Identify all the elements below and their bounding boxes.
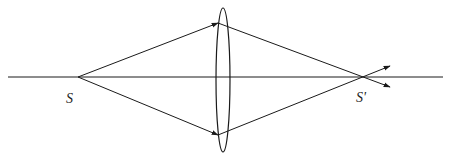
image-label: S' — [356, 90, 367, 105]
source-label: S — [66, 91, 73, 106]
lower-incident-ray — [78, 77, 218, 135]
lens-ray-diagram: S S' — [0, 0, 450, 162]
upper-incident-ray — [78, 23, 218, 77]
convex-lens — [216, 8, 230, 152]
